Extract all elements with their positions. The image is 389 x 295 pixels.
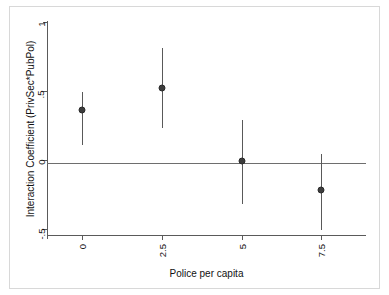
- y-axis-title-text: Interaction Coefficient (PrivSec*PubPol): [25, 40, 36, 217]
- y-tick-label-text: 1: [36, 21, 47, 26]
- x-tick-label-text: 0: [77, 244, 88, 249]
- data-point-marker: [158, 85, 165, 92]
- zero-reference-line: [47, 163, 366, 164]
- x-tick: [82, 236, 83, 240]
- x-axis-line: [47, 235, 366, 236]
- data-point-marker: [318, 187, 325, 194]
- x-tick-label-text: 5: [236, 244, 247, 249]
- y-tick-label-text: 0: [36, 159, 47, 164]
- chart-screenshot: Interaction Coefficient (PrivSec*PubPol)…: [0, 0, 389, 295]
- x-tick: [162, 236, 163, 240]
- y-axis-title: Interaction Coefficient (PrivSec*PubPol): [22, 18, 38, 239]
- x-tick-label-text: 2.5: [156, 244, 167, 257]
- x-tick: [242, 236, 243, 240]
- data-point-marker: [238, 158, 245, 165]
- x-axis-title: Police per capita: [47, 268, 366, 279]
- y-axis-line: [47, 21, 48, 239]
- plot-area: 1.50-.5 02.557.5: [47, 18, 366, 239]
- data-point-marker: [79, 107, 86, 114]
- y-tick-label-text: -.5: [36, 229, 47, 240]
- confidence-interval-bar: [82, 92, 83, 145]
- x-tick-label-text: 7.5: [316, 244, 327, 257]
- y-tick-label-text: .5: [36, 90, 47, 98]
- x-tick: [321, 236, 322, 240]
